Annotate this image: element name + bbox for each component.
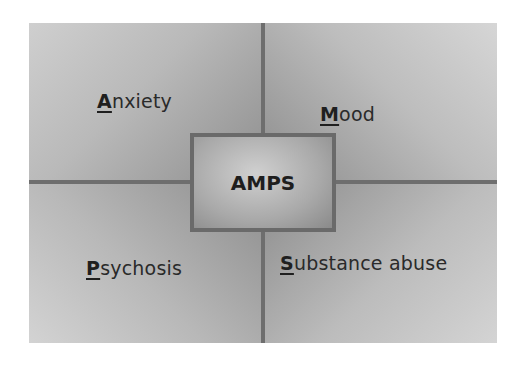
label-rest: nxiety <box>112 90 172 112</box>
amps-diagram: Anxiety Mood Psychosis Substance abuse A… <box>29 23 497 343</box>
quadrant-label-anxiety: Anxiety <box>97 90 172 112</box>
acronym-initial: S <box>280 252 294 274</box>
acronym-initial: P <box>86 257 100 279</box>
label-rest: sychosis <box>100 257 182 279</box>
center-box: AMPS <box>190 133 336 232</box>
quadrant-label-psychosis: Psychosis <box>86 257 182 279</box>
label-rest: ubstance abuse <box>294 252 447 274</box>
quadrant-label-substance-abuse: Substance abuse <box>280 252 447 274</box>
label-rest: ood <box>339 103 375 125</box>
acronym-initial: M <box>320 103 339 125</box>
center-title: AMPS <box>231 171 295 195</box>
acronym-initial: A <box>97 90 112 112</box>
quadrant-label-mood: Mood <box>320 103 375 125</box>
